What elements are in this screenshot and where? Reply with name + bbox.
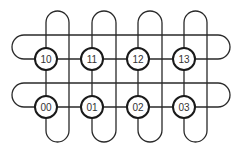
- node-label: 00: [40, 102, 52, 113]
- node-label: 12: [132, 54, 144, 65]
- node-label: 01: [86, 102, 98, 113]
- links: [12, 11, 230, 142]
- node-label: 02: [132, 102, 144, 113]
- column-loop-1: [92, 11, 116, 142]
- column-loop-0: [46, 11, 69, 142]
- node-00: 00: [35, 96, 57, 118]
- node-03: 03: [173, 96, 195, 118]
- node-label: 11: [87, 54, 98, 65]
- torus-network-diagram: 10 11 12 13 00 01 02 03: [0, 0, 245, 153]
- node-10: 10: [35, 48, 57, 70]
- node-02: 02: [127, 96, 149, 118]
- node-label: 03: [178, 102, 190, 113]
- column-loop-3: [184, 11, 207, 142]
- node-label: 13: [178, 54, 190, 65]
- node-11: 11: [81, 48, 103, 70]
- node-label: 10: [40, 54, 52, 65]
- column-loop-2: [138, 11, 162, 142]
- node-01: 01: [81, 96, 103, 118]
- node-12: 12: [127, 48, 149, 70]
- node-13: 13: [173, 48, 195, 70]
